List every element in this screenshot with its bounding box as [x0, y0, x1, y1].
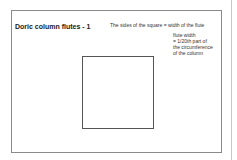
note-line: of the column: [173, 50, 213, 56]
flute-square: [82, 56, 154, 129]
slide-title: Doric column flutes - 1: [15, 23, 90, 30]
page-edge-line: [231, 0, 232, 160]
square-caption: The sides of the square = width of the f…: [110, 22, 204, 28]
flute-width-note: flute width = 1/20th part of the circumf…: [173, 32, 213, 56]
